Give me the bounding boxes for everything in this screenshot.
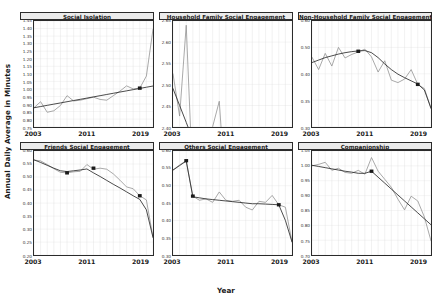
panel-title: Non-Household Family Social Engagement [298, 12, 432, 20]
y-axis-title-text: Annual Daily Average in Minutes [4, 63, 13, 198]
panel-body: 1.051.000.950.900.850.800.750.70 [298, 150, 432, 256]
y-axis-tick-label: 0.40 [162, 218, 171, 223]
y-axis-tick-label: 0.95 [301, 177, 310, 182]
x-axis-ticks: 200320112019 [311, 256, 432, 268]
gridlines [173, 21, 292, 127]
y-axis-tick-label: 0.50 [23, 174, 32, 179]
y-axis-tick-label: 1.05 [23, 79, 32, 84]
plot-area [311, 20, 432, 128]
x-axis-tick-label: 2019 [271, 258, 288, 265]
y-axis-tick-label: 1.15 [23, 64, 32, 69]
y-axis-tick-label: 1.40 [23, 25, 32, 30]
x-axis-ticks: 200320112019 [33, 256, 154, 268]
y-axis-tick-label: 1.45 [23, 18, 32, 23]
y-axis-tick-label: 2.65 [162, 18, 171, 23]
y-axis-title: Annual Daily Average in Minutes [0, 0, 16, 262]
panel-title: Friends Social Engagement [20, 142, 154, 150]
y-axis-tick-label: 2.50 [162, 82, 171, 87]
y-axis-tick-label: 1.25 [23, 48, 32, 53]
panel-companionship: Companionship 1.051.000.950.900.850.800.… [298, 142, 432, 269]
y-axis-ticks: 0.600.550.500.450.400.350.300.250.20 [20, 150, 33, 256]
y-axis-tick-label: 0.95 [23, 95, 32, 100]
x-axis-tick-label: 2019 [271, 130, 288, 137]
panel-title: Others Social Engagement [159, 142, 293, 150]
panel-body: 0.600.500.400.350.30 [298, 20, 432, 128]
panel-social-isolation: Social Isolation 1.451.401.351.301.251.2… [20, 12, 154, 139]
y-axis-ticks: 0.600.550.500.450.400.350.30 [159, 150, 172, 256]
chart-figure: Annual Daily Average in Minutes Social I… [0, 0, 436, 302]
y-axis-tick-label: 0.80 [23, 118, 32, 123]
y-axis-tick-label: 1.00 [23, 87, 32, 92]
y-axis-tick-label: 0.55 [162, 165, 171, 170]
panel-body: 0.600.550.500.450.400.350.300.250.20 [20, 150, 154, 256]
x-axis-tick-label: 2019 [132, 130, 149, 137]
y-axis-tick-label: 0.85 [23, 110, 32, 115]
x-axis-tick-label: 2011 [217, 130, 234, 137]
panel-title: Social Isolation [20, 12, 154, 20]
y-axis-tick-label: 1.10 [23, 72, 32, 77]
breakpoint-marker [92, 166, 96, 169]
panel-household-family-social-engagement: Household Family Social Engagement 2.652… [159, 12, 293, 139]
panel-body: 0.600.550.500.450.400.350.30 [159, 150, 293, 256]
y-axis-tick-label: 1.35 [23, 33, 32, 38]
y-axis-tick-label: 0.60 [162, 147, 171, 152]
breakpoint-marker [370, 169, 374, 172]
y-axis-tick-label: 0.25 [23, 240, 32, 245]
x-axis-ticks: 200320112019 [172, 256, 293, 268]
gridlines [34, 21, 153, 127]
y-axis-tick-label: 0.45 [162, 200, 171, 205]
x-axis-tick-label: 2003 [302, 130, 319, 137]
y-axis-tick-label: 0.90 [301, 193, 310, 198]
gridlines [173, 151, 292, 255]
y-axis-tick-label: 2.45 [162, 104, 171, 109]
y-axis-tick-label: 2.55 [162, 61, 171, 66]
x-axis-tick-label: 2003 [302, 258, 319, 265]
y-axis-tick-label: 0.45 [23, 187, 32, 192]
x-axis-tick-label: 2003 [163, 258, 180, 265]
breakpoint-marker [191, 194, 195, 197]
x-axis-tick-label: 2011 [78, 130, 95, 137]
breakpoint-marker [65, 171, 69, 174]
panel-others-social-engagement: Others Social Engagement 0.600.550.500.4… [159, 142, 293, 269]
y-axis-tick-label: 0.80 [301, 223, 310, 228]
panel-non-household-family-social-engagement: Non-Household Family Social Engagement 0… [298, 12, 432, 139]
y-axis-tick-label: 0.30 [23, 227, 32, 232]
y-axis-tick-label: 0.85 [301, 208, 310, 213]
x-axis-tick-label: 2011 [356, 130, 373, 137]
x-axis-tick-label: 2019 [132, 258, 149, 265]
y-axis-tick-label: 1.30 [23, 41, 32, 46]
x-axis-tick-label: 2011 [78, 258, 95, 265]
breakpoint-marker [184, 159, 188, 162]
y-axis-tick-label: 0.60 [23, 147, 32, 152]
breakpoint-marker [277, 203, 281, 206]
y-axis-ticks: 1.451.401.351.301.251.201.151.101.051.00… [20, 20, 33, 128]
y-axis-tick-label: 1.05 [301, 147, 310, 152]
breakpoint-marker [416, 83, 420, 86]
y-axis-tick-label: 0.90 [23, 102, 32, 107]
x-axis-tick-label: 2003 [24, 258, 41, 265]
x-axis-tick-label: 2003 [163, 130, 180, 137]
x-axis-tick-label: 2003 [24, 130, 41, 137]
y-axis-tick-label: 0.35 [301, 98, 310, 103]
facet-grid: Social Isolation 1.451.401.351.301.251.2… [20, 12, 432, 268]
plot-area [172, 150, 293, 256]
breakpoint-marker [138, 194, 142, 197]
y-axis-ticks: 0.600.500.400.350.30 [298, 20, 311, 128]
y-axis-tick-label: 0.40 [23, 200, 32, 205]
y-axis-tick-label: 0.40 [301, 72, 310, 77]
y-axis-tick-label: 2.60 [162, 39, 171, 44]
x-axis-ticks: 200320112019 [172, 128, 293, 139]
y-axis-ticks: 1.051.000.950.900.850.800.750.70 [298, 150, 311, 256]
plot-area [311, 150, 432, 256]
y-axis-tick-label: 0.50 [162, 183, 171, 188]
x-axis-tick-label: 2011 [356, 258, 373, 265]
y-axis-tick-label: 0.35 [23, 213, 32, 218]
panel-friends-social-engagement: Friends Social Engagement 0.600.550.500.… [20, 142, 154, 269]
plot-area [33, 20, 154, 128]
y-axis-tick-label: 0.35 [162, 236, 171, 241]
panel-title: Household Family Social Engagement [159, 12, 293, 20]
x-axis-tick-label: 2011 [217, 258, 234, 265]
x-axis-ticks: 200320112019 [311, 128, 432, 139]
breakpoint-marker [356, 50, 360, 53]
x-axis-tick-label: 2019 [410, 258, 427, 265]
